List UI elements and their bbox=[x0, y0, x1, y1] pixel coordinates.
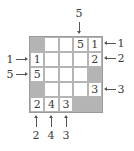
grid-cell: 1 bbox=[30, 52, 44, 67]
left-clue-row-3: 5 bbox=[5, 69, 15, 80]
shaded-cell bbox=[30, 82, 44, 97]
shaded-cell bbox=[88, 67, 102, 82]
shaded-cell bbox=[88, 97, 102, 112]
arrow-left-icon bbox=[106, 89, 116, 90]
grid-cell[interactable] bbox=[44, 37, 58, 52]
grid-cell[interactable] bbox=[73, 52, 87, 67]
grid-cell[interactable] bbox=[59, 67, 73, 82]
grid-cell: 1 bbox=[88, 37, 102, 52]
grid-cell[interactable] bbox=[59, 82, 73, 97]
right-clue-row-4: 3 bbox=[116, 84, 126, 95]
grid-cell: 2 bbox=[88, 52, 102, 67]
arrow-head-icon bbox=[25, 57, 28, 61]
grid-cell[interactable] bbox=[73, 67, 87, 82]
arrow-head-icon bbox=[77, 31, 81, 34]
arrow-up-icon bbox=[66, 117, 67, 127]
grid-cell[interactable] bbox=[59, 52, 73, 67]
grid-cell[interactable] bbox=[44, 82, 58, 97]
arrow-left-icon bbox=[106, 58, 116, 59]
top-clue-col-4: 5 bbox=[74, 8, 84, 19]
grid-cell[interactable] bbox=[44, 67, 58, 82]
grid-cell[interactable] bbox=[44, 52, 58, 67]
shaded-cell bbox=[30, 37, 44, 52]
bottom-clue-col-2: 4 bbox=[46, 130, 56, 141]
arrow-up-icon bbox=[36, 117, 37, 127]
grid-cell[interactable] bbox=[59, 37, 73, 52]
right-clue-row-1: 1 bbox=[116, 38, 126, 49]
arrow-up-icon bbox=[51, 117, 52, 127]
shaded-cell bbox=[73, 97, 87, 112]
grid-cell: 3 bbox=[88, 82, 102, 97]
puzzle-grid: 511253243 bbox=[29, 36, 103, 113]
grid-cell: 4 bbox=[44, 97, 58, 112]
right-clue-row-2: 2 bbox=[116, 53, 126, 64]
grid-cell[interactable] bbox=[73, 82, 87, 97]
bottom-clue-col-1: 2 bbox=[31, 130, 41, 141]
grid-cell: 5 bbox=[30, 67, 44, 82]
arrow-left-icon bbox=[106, 43, 116, 44]
grid-cell: 5 bbox=[73, 37, 87, 52]
grid-cell: 2 bbox=[30, 97, 44, 112]
bottom-clue-col-3: 3 bbox=[61, 130, 71, 141]
grid-cell: 3 bbox=[59, 97, 73, 112]
arrow-head-icon bbox=[25, 72, 28, 76]
left-clue-row-2: 1 bbox=[5, 54, 15, 65]
